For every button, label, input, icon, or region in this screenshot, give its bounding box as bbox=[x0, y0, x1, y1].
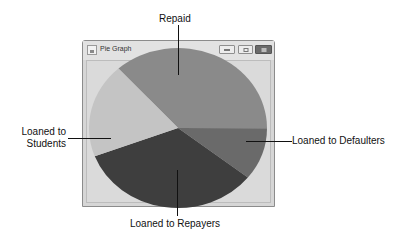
label-students-line2: Students bbox=[20, 138, 66, 150]
repayers-leader-line bbox=[177, 170, 178, 216]
label-repayers: Loaned to Repayers bbox=[130, 218, 220, 230]
label-defaulters: Loaned to Defaulters bbox=[292, 135, 385, 147]
defaulters-leader-line bbox=[246, 141, 292, 142]
repaid-leader-line bbox=[178, 25, 179, 75]
pie-chart bbox=[0, 0, 408, 244]
students-leader-line bbox=[68, 138, 111, 139]
label-students-line1: Loaned to bbox=[20, 126, 66, 138]
label-repaid: Repaid bbox=[159, 13, 191, 25]
label-students: Loaned to Students bbox=[20, 126, 66, 150]
